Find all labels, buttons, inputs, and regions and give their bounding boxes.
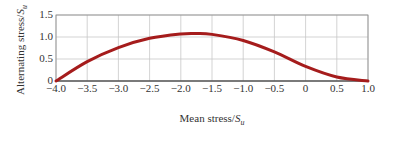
x-axis-label: Mean stress/Su <box>180 112 245 127</box>
x-tick-label: −0.5 <box>264 82 284 94</box>
y-tick-labels: 00.51.01.5 <box>39 8 53 86</box>
x-tick-label: 0.5 <box>330 82 344 94</box>
x-tick-label: 0 <box>303 82 309 94</box>
y-tick-label: 0 <box>48 74 54 86</box>
x-tick-label: −3.0 <box>108 82 128 94</box>
x-tick-label: −3.5 <box>77 82 97 94</box>
x-tick-labels: −4.0−3.5−3.0−2.5−2.0−1.5−1.0−0.500.51.0 <box>46 82 375 94</box>
y-tick-label: 1.0 <box>39 30 53 42</box>
chart: −4.0−3.5−3.0−2.5−2.0−1.5−1.0−0.500.51.0 … <box>0 0 393 151</box>
x-tick-label: −2.5 <box>140 82 160 94</box>
y-tick-label: 1.5 <box>39 8 53 20</box>
x-tick-label: 1.0 <box>361 82 375 94</box>
y-tick-label: 0.5 <box>39 52 53 64</box>
x-tick-label: −1.5 <box>202 82 222 94</box>
x-tick-label: −1.0 <box>233 82 253 94</box>
x-tick-label: −2.0 <box>171 82 191 94</box>
y-axis-label: Alternating stress/Su <box>14 5 29 95</box>
